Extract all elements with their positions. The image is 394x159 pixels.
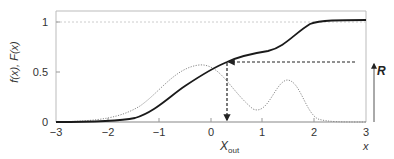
pdf-curve: [56, 65, 366, 122]
x-tick-label: −2: [102, 126, 115, 138]
xout-label: Xout: [219, 139, 240, 155]
y-tick-label: 0: [42, 116, 48, 128]
y-axis-label: f(x), F(x): [8, 41, 20, 83]
y-tick-label: 1: [42, 16, 48, 28]
cdf-curve: [56, 20, 366, 122]
plot-frame: [56, 11, 366, 122]
y-ticks: [56, 22, 60, 72]
x-tick-label: −3: [50, 126, 63, 138]
x-tick-label: 0: [208, 126, 214, 138]
r-label: R: [377, 64, 386, 78]
x-axis-label: x: [362, 140, 369, 152]
xout-sub: out: [228, 146, 240, 155]
x-tick-label: 1: [259, 126, 265, 138]
y-tick-label: 0.5: [33, 66, 48, 78]
x-tick-label: −1: [153, 126, 166, 138]
x-tick-label: 3: [363, 126, 369, 138]
cdf-pdf-chart: 0 0.5 1 −3 −2 −1 0 1 2 3 f(x), F(x) x Xo…: [0, 0, 394, 159]
x-tick-label: 2: [311, 126, 317, 138]
